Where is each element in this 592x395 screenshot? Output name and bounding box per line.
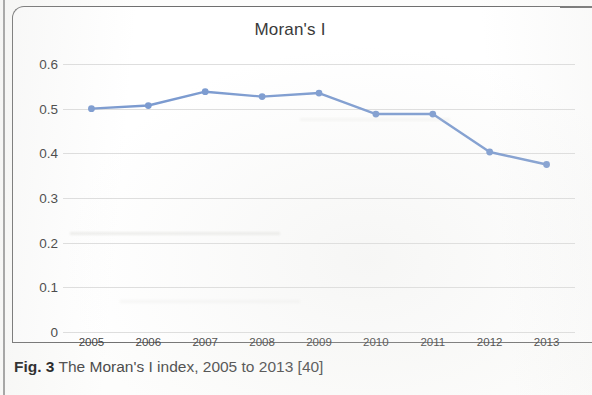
- x-axis-tick-label: 2010: [346, 336, 406, 348]
- chart-title: Moran's I: [0, 20, 580, 40]
- y-axis-tick-label: 0.2: [14, 235, 58, 250]
- data-point-marker: [145, 102, 152, 109]
- data-point-marker: [543, 161, 550, 168]
- data-point-marker: [486, 149, 493, 156]
- x-axis-tick-label: 2007: [175, 336, 235, 348]
- data-point-marker: [202, 88, 209, 95]
- figure-caption-text: The Moran's I index, 2005 to 2013 [40]: [59, 358, 324, 375]
- data-point-marker: [316, 90, 323, 97]
- y-axis-tick-label: 0.1: [14, 280, 58, 295]
- x-axis-tick-label: 2006: [118, 336, 178, 348]
- figure-page: Moran's I 0.60.50.40.30.20.10 2005200620…: [0, 0, 592, 395]
- x-axis-tick-label: 2008: [232, 336, 292, 348]
- x-axis-tick-label: 2012: [460, 336, 520, 348]
- data-point-marker: [429, 111, 436, 118]
- x-axis-tick-label: 2005: [61, 336, 121, 348]
- x-axis: 200520062007200820092010201120122013: [63, 336, 575, 354]
- y-axis-tick-label: 0.6: [14, 57, 58, 72]
- plot-area: [63, 64, 575, 332]
- x-axis-tick-label: 2013: [517, 336, 577, 348]
- y-axis-tick-label: 0: [14, 325, 58, 340]
- y-axis-tick-label: 0.3: [14, 191, 58, 206]
- series-moran-i: [63, 64, 575, 332]
- figure-caption-label: Fig. 3: [14, 358, 54, 375]
- series-line: [91, 92, 546, 165]
- x-axis-tick-label: 2009: [289, 336, 349, 348]
- figure-caption: Fig. 3 The Moran's I index, 2005 to 2013…: [14, 358, 584, 376]
- y-axis-tick-label: 0.4: [14, 146, 58, 161]
- data-point-marker: [88, 105, 95, 112]
- data-point-marker: [259, 93, 266, 100]
- x-axis-tick-label: 2011: [403, 336, 463, 348]
- page-column-rule: [3, 0, 5, 395]
- gridline: [63, 332, 575, 333]
- y-axis-tick-label: 0.5: [14, 101, 58, 116]
- data-point-marker: [372, 111, 379, 118]
- chart-frame-top-extension: [560, 6, 592, 8]
- y-axis: 0.60.50.40.30.20.10: [8, 64, 58, 332]
